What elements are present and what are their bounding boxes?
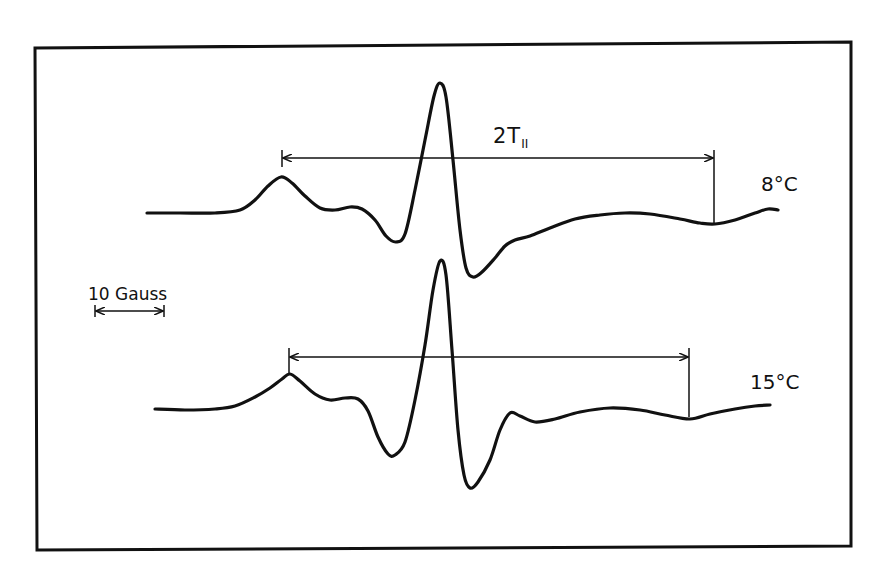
spectrum-trace-8c <box>147 83 778 277</box>
spectrum-trace-15c <box>155 260 770 488</box>
splitting-bracket-8c <box>282 150 714 223</box>
scale-bar-label: 10 Gauss <box>88 284 167 304</box>
splitting-label-main: 2T <box>493 124 521 148</box>
splitting-bracket-15c <box>289 348 689 417</box>
temperature-label-8c: 8°C <box>761 172 798 196</box>
temperature-label-15c: 15°C <box>750 370 799 394</box>
splitting-label-subscript: II <box>521 137 528 151</box>
scale-bar-10-gauss <box>95 305 164 317</box>
splitting-label-2t-parallel: 2TII <box>493 124 528 148</box>
